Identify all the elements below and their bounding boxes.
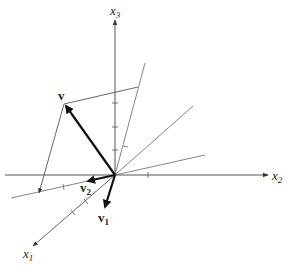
x3-axis-label: x3 xyxy=(109,3,121,20)
vector-v1-label: v1 xyxy=(98,210,110,227)
vector-v-label: v xyxy=(58,88,65,103)
construction-line-left xyxy=(39,104,64,193)
plane-line-steep xyxy=(115,63,145,175)
x2-axis-label: x2 xyxy=(271,168,283,185)
reference-line-2 xyxy=(115,155,205,175)
v2-line-tick xyxy=(63,184,64,190)
x1-axis-label: x1 xyxy=(22,246,33,263)
vector-v2-label: v2 xyxy=(80,180,92,197)
reference-line-1 xyxy=(115,106,193,175)
construction-line-top xyxy=(64,87,138,104)
vector-diagram: x3 x2 x1 v v1 v2 xyxy=(0,0,294,268)
vector-v xyxy=(66,106,115,175)
plane-line-tick xyxy=(123,146,128,147)
